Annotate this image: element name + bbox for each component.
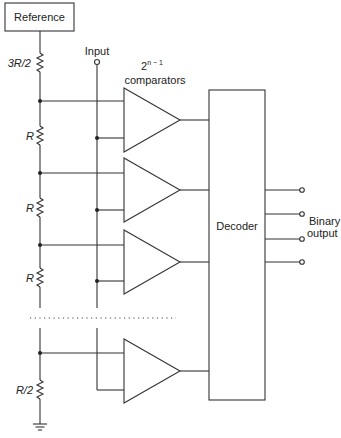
output-terminal-icon: [300, 260, 305, 265]
resistor-ladder: [33, 31, 47, 430]
reference-block: Reference: [5, 3, 74, 31]
flash-adc-diagram: Reference 3R/2 R R R R/2 Input: [0, 0, 341, 438]
comparators-count-label: 2n − 1: [141, 59, 163, 72]
resistor-r3-icon: [37, 268, 43, 287]
resistor-r-half-icon: [37, 380, 43, 399]
decoder-block: Decoder: [209, 90, 265, 400]
resistor-label-r3: R: [26, 272, 34, 284]
output-terminal-icon: [300, 212, 305, 217]
output-terminal-icon: [300, 237, 305, 242]
binary-output-label-2: output: [307, 227, 338, 239]
resistor-label-r-half: R/2: [16, 384, 33, 396]
resistor-label-r1: R: [26, 130, 34, 142]
output-terminal-icon: [300, 188, 305, 193]
ground-icon: [33, 424, 47, 430]
input-terminal-icon: [95, 60, 100, 65]
resistor-r2-icon: [37, 198, 43, 217]
resistor-r1-icon: [37, 126, 43, 145]
comparator-3: [38, 230, 209, 294]
comparator-1: [38, 88, 209, 152]
resistor-label-3r2: 3R/2: [8, 57, 31, 69]
resistor-3r2-icon: [37, 53, 43, 72]
comparator-2: [38, 158, 209, 222]
resistor-label-r2: R: [26, 202, 34, 214]
binary-outputs: Binary output: [265, 188, 341, 265]
binary-output-label-1: Binary: [309, 215, 341, 227]
input-label: Input: [85, 45, 109, 57]
reference-label: Reference: [14, 11, 65, 23]
decoder-label: Decoder: [216, 220, 258, 232]
comparator-4: [38, 339, 209, 403]
comparators-label: comparators: [124, 74, 186, 86]
input-terminal: Input: [85, 45, 109, 390]
